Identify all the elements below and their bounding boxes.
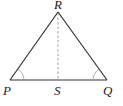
label-s: S bbox=[54, 83, 61, 98]
label-p: P bbox=[2, 83, 11, 98]
triangle-diagram: R P S Q bbox=[0, 0, 123, 106]
angle-mark-p bbox=[18, 69, 24, 80]
label-q: Q bbox=[103, 83, 113, 98]
angle-mark-q bbox=[93, 69, 99, 80]
segment-rq bbox=[58, 12, 107, 80]
segment-pr bbox=[10, 12, 58, 80]
label-r: R bbox=[53, 0, 62, 12]
